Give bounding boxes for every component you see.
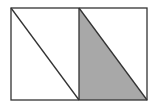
left-diagonal [11, 8, 79, 100]
geometry-diagram [0, 0, 155, 104]
